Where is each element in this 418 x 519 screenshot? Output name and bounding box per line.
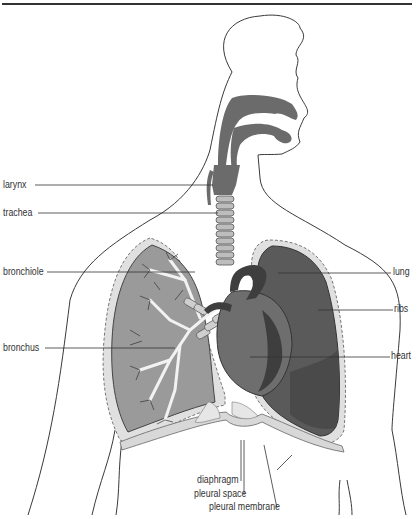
arm-left-inner <box>92 430 115 515</box>
label-heart: heart <box>391 350 411 361</box>
larynx <box>212 165 240 195</box>
label-lung: lung <box>393 266 410 277</box>
respiratory-diagram <box>0 0 418 519</box>
label-trachea: trachea <box>3 207 32 218</box>
arm-right-inner-2 <box>339 480 340 515</box>
label-bronchiole: bronchiole <box>3 266 44 277</box>
label-bronchus: bronchus <box>3 342 39 353</box>
label-diaphragm: diaphragm <box>197 474 239 485</box>
arm-right-inner <box>347 480 352 515</box>
trachea <box>216 196 234 265</box>
diaphragm-right-cup <box>232 402 258 419</box>
arm-left-inner-2 <box>116 440 122 515</box>
label-pleural-membrane: pleural membrane <box>209 501 280 512</box>
label-ribs: ribs <box>394 303 408 314</box>
label-larynx: larynx <box>3 179 26 190</box>
oral-cavity <box>231 124 292 170</box>
label-pleural-space: pleural space <box>194 488 246 499</box>
